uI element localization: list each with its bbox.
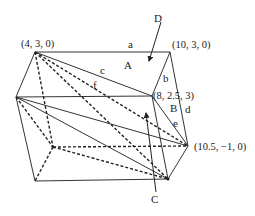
edge-p4-p3 [16,96,152,97]
label-pointer-c: C [151,193,158,205]
label-edge-b: b [163,72,169,84]
arrow-d [149,22,161,61]
vertex-p8 [52,146,55,149]
region-labels: A B [124,59,177,114]
edge-p4-p7 [16,97,168,179]
arrow-c [146,113,156,192]
edge-p1-p4 [16,52,35,97]
label-region-a: A [124,59,132,71]
label-p2: (10, 3, 0) [172,39,211,51]
edge-p4-p5 [16,97,188,146]
label-edge-f: f [93,79,97,91]
edge-p8-p6 [35,147,53,181]
edge-p8-p5 [53,146,188,147]
label-p5: (10.5, −1, 0) [194,141,247,153]
label-p3: (8, 2.5, 3) [153,90,195,102]
edge-p6-p7 [35,179,168,181]
label-region-b: B [170,102,177,114]
edge-p5-p7 [168,146,188,179]
label-edge-d: d [185,103,191,115]
label-edge-c: c [100,64,105,76]
label-edge-e: e [173,117,178,129]
pointer-arrows [146,22,161,192]
label-pointer-d: D [154,12,162,24]
label-p1: (4, 3, 0) [21,38,55,50]
coordinate-labels: (4, 3, 0) (10, 3, 0) (8, 2.5, 3) (10.5, … [21,38,247,153]
label-edge-a: a [128,38,133,50]
geometry-diagram: (4, 3, 0) (10, 3, 0) (8, 2.5, 3) (10.5, … [0,0,255,216]
vertex-p7 [167,178,170,181]
